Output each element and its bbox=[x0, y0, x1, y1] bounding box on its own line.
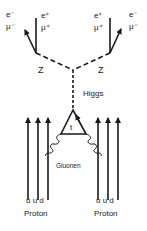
top-quark-loop bbox=[61, 110, 86, 134]
right-muon-label: μ⁻ bbox=[129, 22, 138, 31]
top-quark-arrow bbox=[76, 115, 80, 123]
right-proton-label: Proton bbox=[94, 209, 118, 218]
gluon-right bbox=[86, 134, 101, 156]
left-quark-labels: u u d bbox=[26, 196, 44, 205]
right-lepton-pair bbox=[110, 18, 121, 53]
left-proton-label: Proton bbox=[24, 209, 48, 218]
left-electron-label: e⁻ bbox=[6, 10, 14, 19]
electron-arrow-right bbox=[110, 29, 121, 53]
right-z-label: Z bbox=[98, 65, 104, 75]
z-boson-right-line bbox=[73, 53, 110, 70]
right-electron-label: e⁻ bbox=[129, 10, 137, 19]
right-antimuon-label: μ⁺ bbox=[94, 23, 103, 32]
left-muon-label: μ⁻ bbox=[6, 22, 15, 31]
right-positron-label: e⁺ bbox=[94, 11, 102, 20]
left-antimuon-label: μ⁺ bbox=[41, 23, 50, 32]
higgs-production-diagram: e⁻ μ⁻ e⁺ μ⁺ e⁺ μ⁺ e⁻ μ⁻ Z Z Higgs t Gluo… bbox=[0, 0, 147, 231]
gluon-label: Gluonen bbox=[56, 162, 81, 169]
electron-arrow-left bbox=[25, 30, 36, 53]
left-lepton-pair bbox=[25, 18, 36, 53]
top-quark-label: t bbox=[70, 123, 73, 132]
left-proton-quarks bbox=[28, 118, 48, 200]
right-proton-quarks bbox=[98, 118, 118, 200]
left-positron-label: e⁺ bbox=[41, 11, 49, 20]
left-z-label: Z bbox=[38, 65, 44, 75]
right-quark-labels: u u d bbox=[96, 196, 114, 205]
higgs-label: Higgs bbox=[83, 89, 103, 98]
